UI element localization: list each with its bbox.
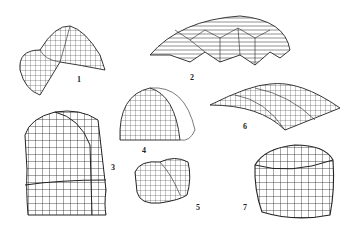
label-7: 7 <box>243 203 247 212</box>
gridshell-drawings <box>0 0 358 229</box>
figure: 1 2 3 4 5 6 7 <box>0 0 358 229</box>
shape-1-saddle <box>20 26 105 95</box>
label-4: 4 <box>142 146 146 155</box>
label-2: 2 <box>190 73 194 82</box>
shape-6-barrel-vault <box>210 84 340 131</box>
shape-7-cushion-cube <box>255 145 334 218</box>
shape-5-pillow <box>135 159 190 204</box>
shape-3-tower <box>25 111 106 215</box>
label-5: 5 <box>196 203 200 212</box>
label-6: 6 <box>243 122 247 131</box>
label-3: 3 <box>111 163 115 172</box>
shape-4-half-dome <box>120 88 195 140</box>
shape-2-ribbed-dome <box>150 16 290 65</box>
label-1: 1 <box>77 75 81 84</box>
